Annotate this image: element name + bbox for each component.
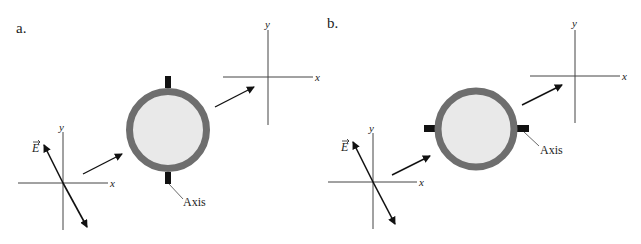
panel-b-outgoing-x-label: x: [621, 70, 627, 82]
panel-b-label: b.: [327, 15, 338, 31]
panel-b-incoming-axes: x y: [328, 122, 424, 229]
panel-a-incoming-arrow: [83, 154, 122, 174]
panel-b-axis-label: Axis: [540, 143, 563, 157]
panel-a-outgoing-y-label: y: [264, 18, 270, 30]
panel-b-polarizer: Axis: [424, 91, 563, 167]
panel-b-outgoing-y-label: y: [571, 17, 577, 29]
panel-a: a. x y E Axis: [16, 18, 320, 230]
panel-b-outgoing-axes: x y: [530, 17, 627, 123]
polarizer-diagram: a. x y E Axis: [0, 0, 641, 244]
panel-a-outgoing-axes: x y: [223, 18, 320, 125]
panel-b-incoming-arrow: [392, 156, 430, 175]
panel-a-incoming-y-label: y: [58, 121, 64, 133]
panel-a-incoming-x-label: x: [109, 177, 115, 189]
panel-b: b. x y E Axis: [327, 15, 627, 229]
panel-b-incoming-y-label: y: [368, 122, 374, 134]
panel-a-incoming-axes: x y: [18, 121, 115, 230]
panel-b-outgoing-arrow: [522, 85, 562, 105]
panel-b-incoming-x-label: x: [418, 176, 424, 188]
panel-a-axis-label: Axis: [183, 195, 206, 209]
panel-a-outgoing-x-label: x: [314, 71, 320, 83]
panel-a-outgoing-arrow: [215, 87, 254, 107]
panel-a-label: a.: [16, 20, 26, 36]
panel-a-polarizer: Axis: [130, 76, 207, 209]
